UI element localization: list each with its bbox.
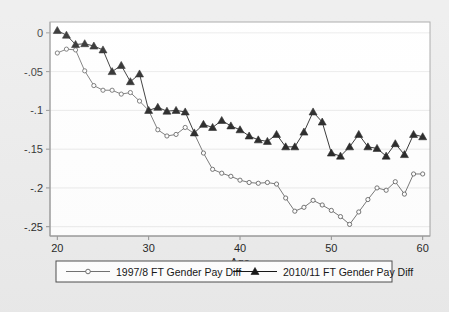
data-point-circle xyxy=(247,180,251,184)
data-point-circle xyxy=(357,210,361,214)
data-point-circle xyxy=(128,90,132,94)
x-tick-label: 20 xyxy=(51,242,63,254)
data-point-circle xyxy=(64,47,68,51)
y-tick-label: -.1 xyxy=(30,104,43,116)
gender-pay-gap-line-chart: 0-.05-.1-.15-.2-.25 2030405060 Age 1997/… xyxy=(0,0,449,312)
data-point-circle xyxy=(375,186,379,190)
data-point-circle xyxy=(55,51,59,55)
x-tick-label: 30 xyxy=(143,242,155,254)
y-tick-label: -.25 xyxy=(24,221,43,233)
x-tick-label: 40 xyxy=(234,242,246,254)
data-point-circle xyxy=(92,83,96,87)
data-point-circle xyxy=(393,180,397,184)
x-tick-label: 60 xyxy=(417,242,429,254)
data-point-circle xyxy=(73,48,77,52)
data-point-circle xyxy=(83,69,87,73)
data-point-circle xyxy=(174,132,178,136)
data-point-circle xyxy=(421,172,425,176)
data-point-circle xyxy=(311,198,315,202)
data-point-circle xyxy=(302,205,306,209)
data-point-circle xyxy=(338,215,342,219)
data-point-circle xyxy=(210,167,214,171)
data-point-circle xyxy=(329,208,333,212)
data-point-circle xyxy=(265,180,269,184)
data-point-circle xyxy=(165,134,169,138)
data-point-circle xyxy=(411,172,415,176)
data-point-circle xyxy=(110,88,114,92)
data-point-circle xyxy=(238,178,242,182)
data-point-circle xyxy=(366,197,370,201)
data-point-circle xyxy=(256,181,260,185)
y-tick-label: -.2 xyxy=(30,182,43,194)
data-point-circle xyxy=(402,192,406,196)
data-point-circle xyxy=(220,171,224,175)
data-point-circle xyxy=(284,196,288,200)
data-point-circle xyxy=(101,88,105,92)
data-point-circle xyxy=(348,222,352,226)
data-point-circle xyxy=(156,128,160,132)
data-point-circle xyxy=(183,125,187,129)
x-tick-label: 50 xyxy=(325,242,337,254)
data-point-circle xyxy=(201,151,205,155)
data-point-circle xyxy=(274,182,278,186)
y-tick-label: 0 xyxy=(37,27,43,39)
legend-marker-circle xyxy=(86,269,91,274)
data-point-circle xyxy=(320,203,324,207)
legend-label: 2010/11 FT Gender Pay Diff xyxy=(283,266,413,278)
data-point-circle xyxy=(119,92,123,96)
data-point-circle xyxy=(293,209,297,213)
y-tick-label: -.15 xyxy=(24,143,43,155)
legend-items: 1997/8 FT Gender Pay Diff2010/11 FT Gend… xyxy=(66,266,413,278)
data-point-circle xyxy=(229,174,233,178)
y-tick-label: -.05 xyxy=(24,66,43,78)
data-point-circle xyxy=(384,188,388,192)
data-point-circle xyxy=(137,99,141,103)
legend-label: 1997/8 FT Gender Pay Diff xyxy=(116,266,241,278)
figure-container: 0-.05-.1-.15-.2-.25 2030405060 Age 1997/… xyxy=(0,0,449,312)
chart-legend: 1997/8 FT Gender Pay Diff2010/11 FT Gend… xyxy=(56,261,413,282)
